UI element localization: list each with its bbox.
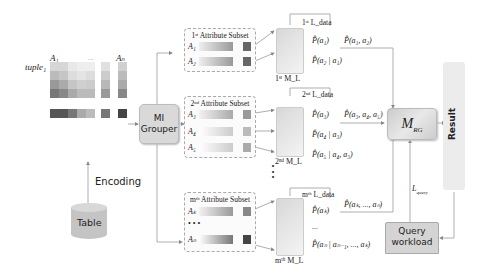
attribute-subset-m: mᵗʰ Attribute Subset Aₖ • • • Aₙ — [184, 192, 256, 252]
joint-2: P̂(a₃, a₄, a₅) — [344, 110, 383, 119]
local-model-m[interactable] — [276, 198, 304, 256]
tuple-label: tuple₁ — [25, 62, 46, 72]
encoding-label: Encoding — [95, 176, 141, 187]
lquery-label: Lquery — [412, 184, 428, 195]
result-bar: Result — [443, 62, 465, 190]
joint-1: P̂(a₁, a₂) — [344, 36, 372, 45]
ldata-2: 2ⁿᵈ L_data — [302, 90, 333, 99]
matrix-cells — [50, 62, 130, 120]
ldata-1: 1ˢᵗ L_data — [302, 18, 331, 27]
model-label-2: 2ⁿᵈ M_L — [275, 157, 302, 166]
mi-grouper[interactable]: MI Grouper — [139, 104, 179, 144]
model-label-m: mᵗʰ M_L — [275, 256, 303, 265]
query-workload[interactable]: Query workload — [385, 222, 439, 254]
attribute-subset-2: 2ⁿᵈ Attribute Subset A₃ A₄ A₅ — [184, 96, 256, 158]
model-label-1: 1ˢᵗ M_L — [275, 74, 300, 83]
attribute-subset-1: 1ˢᵗ Attribute Subset A₁ A₂ — [184, 28, 256, 72]
joint-m: P̂(aₖ, ..., aₙ) — [344, 200, 382, 209]
matrix-ellipsis: ... — [88, 54, 94, 61]
local-model-1[interactable] — [276, 28, 304, 74]
table-label: Table — [77, 217, 102, 228]
subset-title: 1ˢᵗ Attribute Subset — [185, 31, 255, 40]
local-model-2[interactable] — [276, 107, 304, 157]
ldata-m: mᵗʰ L_data — [302, 190, 334, 199]
grouper-line2: Grouper — [140, 124, 178, 135]
grouper-line1: MI — [140, 113, 178, 124]
result-label: Result — [447, 108, 457, 140]
global-model-mrg[interactable]: MRG — [387, 108, 437, 140]
table-cylinder[interactable]: Table — [71, 203, 107, 243]
